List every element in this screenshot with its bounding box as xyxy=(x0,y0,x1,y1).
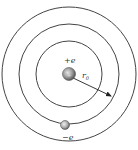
nucleus-charge-label: +e xyxy=(64,56,76,65)
nucleus-plus-sign: + xyxy=(66,71,71,78)
radius-label: r0 xyxy=(82,71,90,81)
radius-subscript: 0 xyxy=(86,75,90,81)
radius-arrow xyxy=(71,77,111,96)
electron xyxy=(61,121,70,130)
electron-charge-label: −e xyxy=(62,133,74,142)
bohr-atom-diagram: + +e r0 −e xyxy=(0,0,138,150)
